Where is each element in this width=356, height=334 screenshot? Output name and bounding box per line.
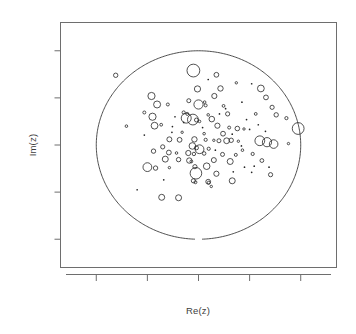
data-point (183, 122, 185, 124)
data-point (228, 126, 231, 129)
data-point (241, 101, 243, 103)
data-point (232, 171, 234, 173)
data-point (268, 173, 272, 177)
data-point (243, 128, 245, 130)
data-point (226, 112, 230, 116)
data-point (166, 150, 171, 155)
data-point (159, 194, 165, 200)
data-point (214, 72, 219, 77)
data-point (187, 64, 200, 77)
data-point (202, 127, 204, 129)
data-point (215, 123, 220, 128)
data-point (187, 99, 191, 103)
data-point (227, 158, 233, 164)
data-point (148, 92, 155, 99)
data-point (187, 114, 198, 125)
data-point (257, 124, 259, 126)
data-point (203, 101, 206, 104)
data-point (260, 159, 264, 163)
data-point (207, 147, 210, 150)
data-point (166, 103, 169, 106)
data-point (246, 119, 248, 121)
x-axis-ticks (96, 275, 300, 282)
data-point (270, 105, 274, 109)
y-axis-ticks (55, 51, 61, 239)
data-point (251, 83, 253, 85)
data-point (241, 145, 243, 147)
data-point (143, 134, 145, 136)
data-point (114, 73, 118, 77)
data-point (163, 179, 165, 181)
data-point (167, 137, 172, 142)
data-point (192, 137, 197, 142)
data-point (217, 139, 221, 143)
data-point (194, 100, 203, 109)
data-point (264, 95, 269, 100)
data-point (274, 113, 278, 117)
data-point (125, 125, 128, 128)
data-point (215, 149, 217, 151)
data-point (168, 166, 170, 168)
data-point (207, 114, 210, 117)
data-point (235, 82, 237, 84)
data-point (192, 152, 195, 155)
data-point (136, 189, 138, 191)
scatter-plot-canvas: Re(z) Im(z) (0, 0, 356, 334)
data-point (172, 126, 174, 128)
complex-plane-figure: Re(z) Im(z) (0, 0, 356, 334)
data-point (143, 163, 152, 172)
data-point (254, 113, 257, 116)
data-point (198, 120, 201, 123)
data-point (207, 79, 209, 81)
data-point (249, 129, 251, 131)
data-point (181, 131, 183, 133)
data-point (194, 86, 200, 92)
data-point (171, 131, 173, 133)
data-point (177, 137, 182, 142)
data-point (224, 138, 230, 144)
data-point (218, 86, 223, 91)
data-point (176, 157, 180, 161)
data-point (160, 123, 163, 126)
data-point (222, 104, 225, 107)
data-point (153, 166, 157, 170)
y-axis-label: Im(z) (27, 134, 38, 157)
x-axis-label: Re(z) (186, 305, 210, 316)
data-point (190, 167, 202, 179)
data-point (251, 152, 254, 155)
data-point (149, 113, 156, 120)
data-point (219, 113, 221, 115)
data-point (237, 140, 239, 142)
data-point (269, 140, 278, 149)
data-point (231, 133, 233, 135)
data-point (161, 145, 165, 149)
data-point (221, 131, 226, 136)
data-point (151, 122, 158, 129)
data-point (174, 116, 176, 118)
data-point (241, 149, 244, 152)
data-point (143, 111, 146, 114)
data-point (221, 152, 225, 156)
data-point (202, 152, 206, 156)
data-point (251, 171, 253, 173)
data-point (204, 138, 207, 141)
data-point (234, 153, 237, 156)
data-point (151, 149, 155, 153)
data-point (154, 101, 161, 108)
data-point (265, 130, 267, 132)
data-point (209, 116, 215, 122)
data-point (253, 165, 255, 167)
data-point (244, 166, 246, 168)
y-axis (55, 29, 61, 262)
data-point (268, 166, 270, 168)
data-point (211, 158, 216, 163)
data-point (186, 150, 191, 155)
data-point (212, 93, 217, 98)
data-point (210, 185, 212, 187)
data-point (235, 126, 240, 131)
data-point (213, 139, 215, 141)
x-axis (66, 275, 331, 282)
data-point (225, 108, 227, 110)
data-point (176, 195, 182, 201)
data-point (285, 117, 288, 120)
